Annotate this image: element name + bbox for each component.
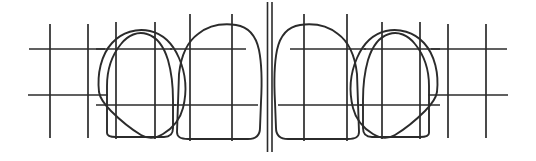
tooth-diagram-canvas	[0, 0, 536, 161]
anterior-teeth-diagram-figure	[0, 0, 536, 161]
